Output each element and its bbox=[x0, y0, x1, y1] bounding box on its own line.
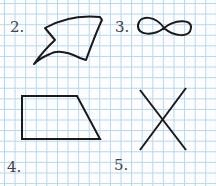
trapezoid bbox=[22, 96, 100, 139]
figures-canvas bbox=[0, 0, 216, 186]
curved-arrowhead-shape bbox=[34, 16, 102, 64]
infinity-loop bbox=[138, 18, 191, 35]
grid-paper: 2. 3. 4. 5. bbox=[0, 0, 216, 186]
